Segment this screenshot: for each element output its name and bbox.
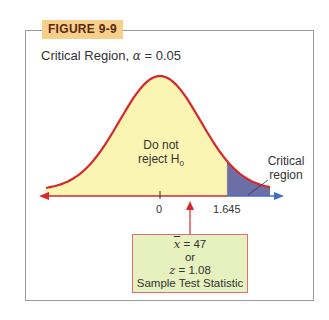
axis-right-arrow (274, 192, 284, 200)
critical-region-label: Critical region (262, 154, 310, 182)
accept-region-label: Do not reject H0 (130, 138, 192, 171)
xbar-line: x = 47 (133, 238, 247, 251)
axis-left-arrow (39, 192, 49, 200)
z-line: z = 1.08 (133, 264, 247, 277)
critical-line2: region (269, 168, 302, 182)
tick-label-zero: 0 (156, 203, 162, 215)
accept-subscript: 0 (179, 159, 183, 168)
test-statistic-box: x = 47 or z = 1.08 Sample Test Statistic (132, 234, 248, 293)
critical-line1: Critical (268, 154, 305, 168)
z-symbol: z (169, 263, 175, 277)
or-text: or (133, 251, 247, 264)
xbar-value: = 47 (184, 238, 207, 250)
accept-line2: reject H (138, 152, 179, 166)
xbar-symbol: x (174, 237, 181, 251)
stat-arrow-head (186, 201, 194, 210)
stat-caption: Sample Test Statistic (133, 277, 247, 290)
accept-line1: Do not (143, 138, 178, 152)
z-value: = 1.08 (178, 264, 210, 276)
tick-label-critical: 1.645 (213, 203, 241, 215)
